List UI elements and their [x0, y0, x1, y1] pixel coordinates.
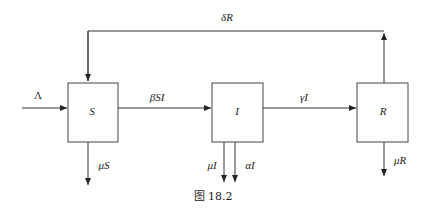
inflow-arrow: Λ	[22, 89, 67, 108]
node-s-label: S	[89, 105, 95, 117]
feedback-arrow-r-to-s: δR	[88, 11, 384, 83]
arrow-s-to-i: βSI	[118, 91, 211, 108]
outflow-i: μI αI	[206, 142, 256, 182]
outflow-r: μR	[384, 142, 406, 176]
label-gamma-i: γI	[300, 91, 309, 103]
label-beta-si: βSI	[149, 91, 166, 103]
node-r-label: R	[379, 105, 387, 117]
node-r: R	[357, 83, 408, 142]
sirs-diagram: δR Λ S βSI I γI R μS μI αI	[0, 0, 426, 216]
label-alpha-i: αI	[245, 159, 256, 171]
label-mu-r: μR	[393, 154, 407, 166]
figure-caption: 图 18.2	[194, 190, 233, 203]
node-i: I	[212, 83, 263, 142]
label-mu-i: μI	[206, 159, 218, 171]
label-lambda: Λ	[34, 89, 42, 101]
label-delta-r: δR	[221, 11, 233, 23]
label-mu-s: μS	[97, 159, 110, 171]
node-s: S	[68, 83, 118, 142]
outflow-s: μS	[88, 142, 110, 185]
arrow-i-to-r: γI	[263, 91, 356, 108]
